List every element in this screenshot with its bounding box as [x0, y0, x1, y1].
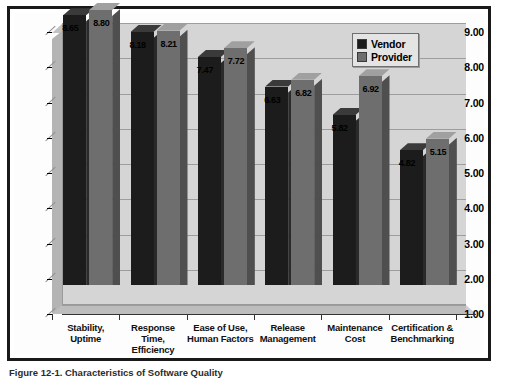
gridline — [62, 305, 466, 306]
bar-top-face — [89, 3, 120, 10]
category-label-line: Human Factors — [183, 333, 258, 344]
category-label-line: Release — [250, 322, 325, 333]
legend-swatch-provider — [357, 52, 367, 62]
x-axis-tick — [321, 314, 322, 320]
bar-value-label: 5.15 — [430, 147, 446, 157]
bar-value-label: 4.82 — [399, 158, 415, 168]
bar-value-label: 6.63 — [264, 95, 280, 105]
plot-floor — [52, 305, 466, 314]
x-axis-tick — [389, 314, 390, 320]
category-label-line: Management — [250, 333, 325, 344]
category-label-line: Time, — [115, 333, 190, 344]
category-label-line: Maintenance — [317, 322, 392, 333]
figure-frame: 9.008.007.006.005.004.003.002.001.00 8.6… — [7, 6, 491, 361]
legend-item-provider: Provider — [357, 50, 412, 63]
bar-chart: 9.008.007.006.005.004.003.002.001.00 8.6… — [14, 13, 484, 354]
category-label-line: Cost — [317, 333, 392, 344]
gridline — [62, 23, 466, 24]
y-axis-tick — [47, 103, 52, 104]
y-axis-tick — [47, 173, 52, 174]
bar-value-label: 7.72 — [228, 56, 244, 66]
bar-value-label: 7.47 — [197, 65, 213, 75]
bar-side-face — [247, 47, 255, 285]
x-axis-category-label: Ease of Use,Human Factors — [183, 322, 258, 344]
bar-value-label: 6.92 — [363, 84, 379, 94]
bar-value-label: 8.18 — [130, 40, 146, 50]
x-axis-tick — [119, 314, 120, 320]
bar-vendor — [400, 150, 423, 285]
bar-side-face — [112, 9, 120, 285]
x-axis-category-label: ResponseTime,Efficiency — [115, 322, 190, 355]
bar-side-face — [382, 75, 390, 285]
y-axis-tick — [47, 32, 52, 33]
bar-provider — [89, 10, 112, 285]
bar-provider — [359, 76, 382, 285]
bar-front-face — [333, 115, 356, 285]
y-axis-tick — [47, 67, 52, 68]
bar-front-face — [89, 10, 112, 285]
y-axis-tick-label: 8.00 — [448, 61, 484, 73]
bar-vendor — [63, 15, 86, 285]
category-label-line: Certification & — [385, 322, 460, 333]
bar-front-face — [265, 87, 288, 285]
y-axis-tick — [47, 244, 52, 245]
category-label-line: Ease of Use, — [183, 322, 258, 333]
y-axis-tick — [47, 208, 52, 209]
bar-front-face — [291, 80, 314, 285]
gridline — [62, 129, 466, 130]
x-axis-category-label: ReleaseManagement — [250, 322, 325, 344]
bar-front-face — [224, 48, 247, 285]
category-label-line: Response — [115, 322, 190, 333]
x-axis-line — [62, 314, 476, 315]
x-axis-category-label: Certification &Benchmarking — [385, 322, 460, 344]
bar-vendor — [265, 87, 288, 285]
category-label-line: Efficiency — [115, 344, 190, 355]
legend-item-vendor: Vendor — [357, 37, 412, 50]
bar-front-face — [63, 15, 86, 285]
legend-swatch-vendor — [357, 39, 367, 49]
bar-front-face — [359, 76, 382, 285]
x-axis-tick — [52, 314, 53, 320]
y-axis-tick-label: 9.00 — [448, 26, 484, 38]
bar-value-label: 8.65 — [62, 23, 78, 33]
bar-front-face — [131, 32, 154, 285]
y-axis-tick — [47, 279, 52, 280]
bar-vendor — [131, 32, 154, 285]
bar-provider — [157, 31, 180, 285]
bar-front-face — [198, 57, 221, 285]
bar-value-label: 8.80 — [93, 18, 109, 28]
x-axis-tick — [254, 314, 255, 320]
figure-caption: Figure 12-1. Characteristics of Software… — [9, 367, 489, 383]
bar-side-face — [314, 79, 322, 285]
bar-value-label: 6.82 — [295, 88, 311, 98]
bar-side-face — [449, 138, 457, 285]
bar-vendor — [198, 57, 221, 285]
bar-side-face — [180, 30, 188, 285]
bar-provider — [291, 80, 314, 285]
legend-label-vendor: Vendor — [371, 38, 405, 50]
bar-front-face — [157, 31, 180, 285]
x-axis-category-label: MaintenanceCost — [317, 322, 392, 344]
chart-legend: Vendor Provider — [352, 33, 419, 67]
y-axis-tick-label: 7.00 — [448, 97, 484, 109]
category-label-line: Stability, — [48, 322, 123, 333]
legend-label-provider: Provider — [371, 51, 412, 63]
x-axis-tick — [187, 314, 188, 320]
bar-front-face — [426, 139, 449, 285]
y-axis-tick — [47, 138, 52, 139]
x-axis-tick — [456, 314, 457, 320]
bar-vendor — [333, 115, 356, 285]
category-label-line: Benchmarking — [385, 333, 460, 344]
bar-provider — [224, 48, 247, 285]
x-axis-category-label: Stability,Uptime — [48, 322, 123, 344]
category-label-line: Uptime — [48, 333, 123, 344]
figure-inner-panel: 9.008.007.006.005.004.003.002.001.00 8.6… — [14, 13, 484, 354]
bar-value-label: 5.82 — [332, 123, 348, 133]
bar-value-label: 8.21 — [161, 39, 177, 49]
bar-front-face — [400, 150, 423, 285]
bar-provider — [426, 139, 449, 285]
